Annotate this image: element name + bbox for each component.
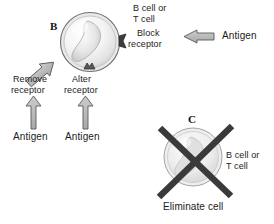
panel-c-cell-label-line2: T cell — [226, 161, 248, 172]
panel-c-cell-label-line1: B cell or — [226, 150, 259, 161]
panel-b-cell — [61, 13, 120, 72]
arrow-up-icon — [26, 96, 41, 129]
receptor-right-blocked — [119, 34, 126, 48]
remove-receptor-label-line1: Remove — [13, 74, 47, 85]
block-receptor-label-line1: Block — [137, 28, 160, 39]
panel-b-cell-label-line2: T cell — [133, 14, 155, 25]
antigen-label-remove: Antigen — [13, 131, 48, 142]
panel-b-letter: B — [50, 20, 57, 32]
arrow-antigen-remove-source — [26, 96, 41, 129]
panel-c-letter: C — [188, 113, 196, 125]
arrow-up-icon — [78, 96, 93, 129]
antigen-label-alter: Antigen — [65, 131, 100, 142]
panel-b-cell-label-line1: B cell or — [133, 3, 166, 14]
immunology-figure: B B cell or T cell Block receptor Antige… — [0, 0, 274, 224]
eliminate-cell-label: Eliminate cell — [163, 201, 223, 212]
arrow-antigen-block — [184, 30, 214, 43]
alter-receptor-label-line2: receptor — [64, 85, 98, 96]
remove-receptor-label-line2: receptor — [11, 85, 45, 96]
arrow-left-icon — [184, 30, 214, 43]
block-receptor-label-line2: receptor — [128, 39, 162, 50]
antigen-label-block: Antigen — [222, 30, 257, 41]
alter-receptor-label-line1: Alter — [72, 74, 91, 85]
arrow-antigen-alter-source — [78, 96, 93, 129]
receptor-bracket-icon — [119, 34, 126, 48]
